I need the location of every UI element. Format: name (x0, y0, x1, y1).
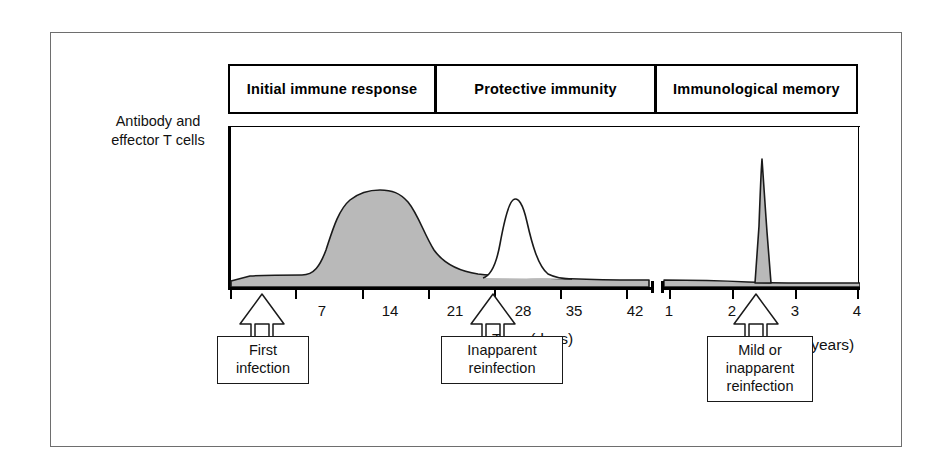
y-axis-label-line-2: effector T cells (92, 131, 224, 150)
tick-year-1 (669, 290, 671, 299)
tick-day-21 (428, 290, 430, 299)
phase-label: Initial immune response (247, 81, 418, 97)
tick-year-4 (857, 290, 859, 299)
phase-box-protective-immunity: Protective immunity (435, 64, 656, 114)
axis-break-mark-right (661, 281, 664, 293)
tick-label-day-14: 14 (370, 302, 410, 319)
callout-line: Mild or (708, 341, 812, 359)
callout-line: inapparent (708, 359, 812, 377)
axis-break-mark-left (651, 281, 654, 293)
y-axis-label: Antibody and effector T cells (92, 112, 224, 150)
secondary-response-curve (483, 199, 572, 279)
immunology-response-figure: Initial immune response Protective immun… (0, 0, 942, 464)
tick-day-42 (626, 290, 628, 299)
callout-line: reinfection (708, 377, 812, 395)
phase-box-initial-immune-response: Initial immune response (228, 64, 436, 114)
callout-mild-or-inapparent-reinfection: Mild or inapparent reinfection (706, 292, 816, 404)
callout-line: First (218, 341, 308, 359)
y-axis-label-line-1: Antibody and (92, 112, 224, 131)
callout-box-first-infection: First infection (217, 336, 309, 384)
response-curves (228, 126, 860, 290)
phase-label: Protective immunity (474, 81, 616, 97)
primary-response-curve (231, 190, 649, 287)
callout-line: reinfection (442, 359, 562, 377)
callout-inapparent-reinfection: Inapparent reinfection (440, 292, 566, 386)
tick-day-14 (362, 290, 364, 299)
callout-line: infection (218, 359, 308, 377)
callout-first-infection: First infection (216, 292, 312, 386)
x-axis-line (228, 287, 860, 290)
tick-label-year-1: 1 (649, 302, 689, 319)
tick-label-year-4: 4 (837, 302, 877, 319)
phase-header-strip: Initial immune response Protective immun… (228, 64, 858, 114)
phase-label: Immunological memory (673, 81, 840, 97)
plot-area (228, 126, 860, 290)
phase-box-immunological-memory: Immunological memory (655, 64, 858, 114)
callout-line: Inapparent (442, 341, 562, 359)
callout-box-mild-or-inapparent-reinfection: Mild or inapparent reinfection (707, 336, 813, 402)
callout-box-inapparent-reinfection: Inapparent reinfection (441, 336, 563, 384)
memory-response-spike (755, 159, 771, 283)
